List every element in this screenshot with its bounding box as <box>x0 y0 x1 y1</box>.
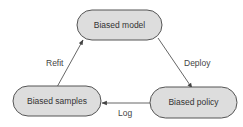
node-biased-model: Biased model <box>77 10 162 40</box>
node-label-biased-policy: Biased policy <box>168 97 219 107</box>
node-label-biased-samples: Biased samples <box>27 96 87 106</box>
edge-label-deploy: Deploy <box>184 58 211 68</box>
edge-label-refit: Refit <box>46 58 64 68</box>
node-biased-samples: Biased samples <box>13 86 101 116</box>
node-label-biased-model: Biased model <box>94 20 146 30</box>
feedback-loop-diagram: Deploy Log Refit Biased model Biased pol… <box>0 0 243 127</box>
edge-label-log: Log <box>118 108 132 118</box>
node-biased-policy: Biased policy <box>150 87 237 118</box>
